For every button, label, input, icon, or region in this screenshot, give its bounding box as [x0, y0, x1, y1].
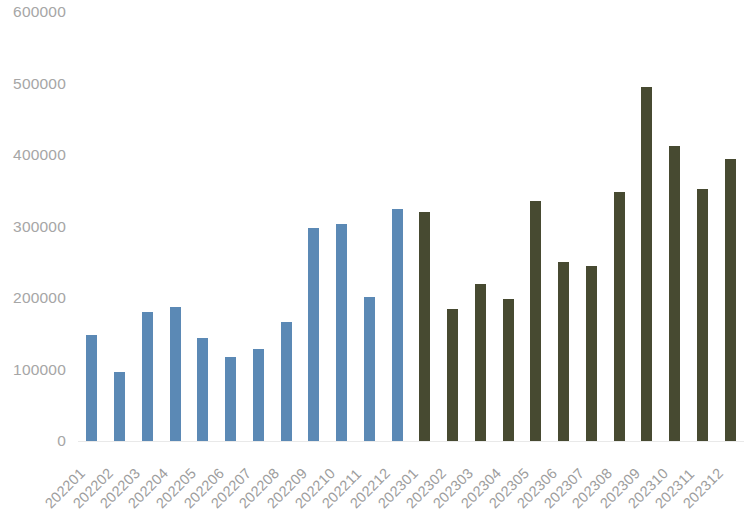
bar-slot [161, 12, 189, 441]
bar[interactable] [725, 159, 736, 441]
bar[interactable] [114, 372, 125, 441]
bar[interactable] [614, 192, 625, 441]
bar-slot [633, 12, 661, 441]
bar[interactable] [641, 87, 652, 441]
bar-slot [106, 12, 134, 441]
y-axis-tick-label: 500000 [13, 75, 66, 93]
bar[interactable] [558, 262, 569, 441]
y-axis-tick-label: 600000 [13, 3, 66, 21]
bar-slot [300, 12, 328, 441]
bar-slot [78, 12, 106, 441]
y-axis-tick-label: 0 [57, 432, 66, 450]
bar-slot [689, 12, 717, 441]
y-axis-tick-label: 300000 [13, 218, 66, 236]
x-axis-baseline [78, 441, 744, 442]
bar[interactable] [419, 212, 430, 442]
bar[interactable] [308, 228, 319, 441]
bar-slot [328, 12, 356, 441]
x-axis: 2022012022022022032022042022052022062022… [78, 443, 744, 503]
bar[interactable] [475, 284, 486, 441]
plot-area [78, 12, 744, 441]
bar-slot [494, 12, 522, 441]
y-axis: 6000005000004000003000002000001000000 [0, 0, 78, 503]
bar-slot [383, 12, 411, 441]
bar-slot [578, 12, 606, 441]
bar-group [78, 12, 744, 441]
bar[interactable] [197, 338, 208, 441]
bar[interactable] [364, 297, 375, 441]
bar-slot [134, 12, 162, 441]
bar-slot [217, 12, 245, 441]
bar-slot [716, 12, 744, 441]
bar[interactable] [253, 349, 264, 441]
y-axis-tick-label: 100000 [13, 361, 66, 379]
bar[interactable] [392, 209, 403, 441]
y-axis-tick-label: 200000 [13, 289, 66, 307]
bar[interactable] [142, 312, 153, 441]
bar-slot [245, 12, 273, 441]
bar[interactable] [586, 266, 597, 441]
bar[interactable] [336, 224, 347, 441]
x-axis-slot: 202312 [716, 443, 744, 503]
bar-slot [356, 12, 384, 441]
bar-slot [661, 12, 689, 441]
bar-slot [439, 12, 467, 441]
bar-slot [467, 12, 495, 441]
bar[interactable] [669, 146, 680, 441]
bar[interactable] [225, 357, 236, 441]
bar-slot [411, 12, 439, 441]
bar-slot [272, 12, 300, 441]
bar-slot [189, 12, 217, 441]
bar-slot [550, 12, 578, 441]
y-axis-tick-label: 400000 [13, 146, 66, 164]
bar-slot [522, 12, 550, 441]
bar[interactable] [170, 307, 181, 441]
bar[interactable] [86, 335, 97, 441]
bar[interactable] [503, 299, 514, 441]
bar[interactable] [281, 322, 292, 441]
bar[interactable] [697, 189, 708, 441]
bar-slot [605, 12, 633, 441]
bar[interactable] [447, 309, 458, 441]
bar[interactable] [530, 201, 541, 441]
